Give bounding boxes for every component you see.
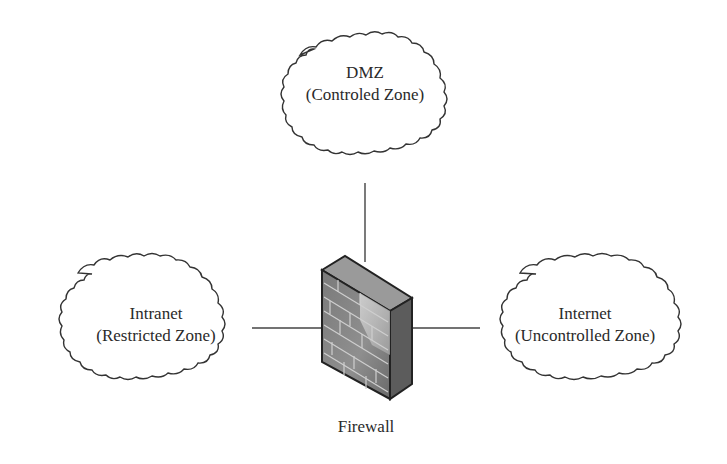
- intranet-zone-label: Intranet (Restricted Zone): [96, 303, 215, 347]
- dmz-subtitle: (Controled Zone): [306, 84, 425, 106]
- brick-firewall-icon: [322, 256, 412, 399]
- internet-subtitle: (Uncontrolled Zone): [515, 325, 655, 347]
- firewall-label: Firewall: [338, 416, 395, 438]
- intranet-subtitle: (Restricted Zone): [96, 325, 215, 347]
- dmz-title: DMZ: [306, 62, 425, 84]
- intranet-title: Intranet: [96, 303, 215, 325]
- internet-zone-label: Internet (Uncontrolled Zone): [515, 303, 655, 347]
- dmz-zone-label: DMZ (Controled Zone): [306, 62, 425, 106]
- internet-title: Internet: [515, 303, 655, 325]
